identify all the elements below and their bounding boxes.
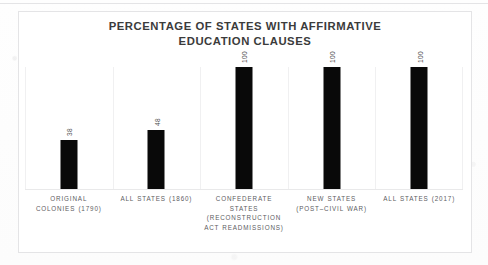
axis-baseline	[25, 189, 463, 190]
bar-column: 100	[288, 67, 376, 189]
category-label-line: ORIGINAL	[25, 194, 113, 204]
bar-value-label: 100	[241, 51, 248, 63]
bar[interactable]	[148, 130, 165, 189]
chart-title-line-2: EDUCATION CLAUSES	[19, 34, 471, 49]
category-label-line: NEW STATES	[288, 194, 376, 204]
category-axis-labels: ORIGINAL COLONIES (1790) ALL STATES (186…	[25, 194, 463, 248]
category-label-line: (POST–CIVIL WAR)	[288, 204, 376, 214]
bar-value-label: 100	[329, 51, 336, 63]
category-label-line: (RECONSTRUCTION	[200, 213, 288, 223]
category-label-new-states: NEW STATES (POST–CIVIL WAR)	[288, 194, 376, 213]
category-label-confederate-states: CONFEDERATE STATES (RECONSTRUCTION ACT R…	[200, 194, 288, 232]
bar[interactable]	[235, 67, 252, 189]
category-label-line: ACT READMISSIONS)	[200, 223, 288, 233]
category-label-line: CONFEDERATE	[200, 194, 288, 204]
bar-group: 38	[60, 67, 77, 189]
category-label-all-states-2017: ALL STATES (2017)	[375, 194, 463, 204]
bar-column: 38	[25, 67, 113, 189]
category-label-all-states-1860: ALL STATES (1860)	[113, 194, 201, 204]
category-label-line: COLONIES (1790)	[25, 204, 113, 214]
category-label-line: ALL STATES (1860)	[113, 194, 201, 204]
bar-value-label: 48	[154, 118, 161, 126]
bar[interactable]	[323, 67, 340, 189]
chart-title-line-1: PERCENTAGE OF STATES WITH AFFIRMATIVE	[19, 19, 471, 34]
category-label-original-colonies: ORIGINAL COLONIES (1790)	[25, 194, 113, 213]
bar-group: 48	[148, 67, 165, 189]
category-label-line: STATES	[200, 204, 288, 214]
bar-value-label: 38	[66, 128, 73, 136]
bar-column: 48	[113, 67, 201, 189]
bar[interactable]	[60, 140, 77, 189]
plot-area: 38 48 100 100 100	[25, 67, 463, 189]
chart-title: PERCENTAGE OF STATES WITH AFFIRMATIVE ED…	[19, 19, 471, 49]
bar-group: 100	[411, 67, 428, 189]
chart-card: PERCENTAGE OF STATES WITH AFFIRMATIVE ED…	[18, 11, 472, 253]
bar-group: 100	[323, 67, 340, 189]
bar-group: 100	[235, 67, 252, 189]
category-label-line: ALL STATES (2017)	[375, 194, 463, 204]
bar-column: 100	[375, 67, 463, 189]
bar-value-label: 100	[417, 51, 424, 63]
bar[interactable]	[411, 67, 428, 189]
bar-column: 100	[200, 67, 288, 189]
